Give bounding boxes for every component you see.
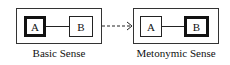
basic-link (46, 26, 69, 27)
metonymic-sense-caption: Metonymic Sense (133, 47, 219, 59)
basic-node-b: B (69, 16, 93, 37)
dashed-arrow-icon (102, 20, 134, 32)
metonymic-node-b: B (184, 16, 209, 37)
basic-node-a: A (24, 16, 46, 37)
metonymic-node-a: A (140, 16, 162, 37)
basic-sense-caption: Basic Sense (16, 47, 102, 59)
metonymic-link (162, 26, 184, 27)
